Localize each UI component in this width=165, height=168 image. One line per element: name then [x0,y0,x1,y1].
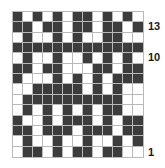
chart-cell[interactable] [103,95,113,105]
chart-cell[interactable] [63,116,73,126]
chart-cell[interactable] [93,84,103,94]
chart-cell[interactable] [93,33,103,43]
chart-cell[interactable] [113,43,123,53]
chart-cell[interactable] [123,43,133,53]
chart-cell[interactable] [43,126,53,136]
chart-cell[interactable] [33,126,43,136]
chart-cell[interactable] [83,147,93,157]
chart-cell[interactable] [13,74,23,84]
chart-cell[interactable] [63,126,73,136]
chart-cell[interactable] [123,147,133,157]
chart-cell[interactable] [113,147,123,157]
chart-cell[interactable] [103,136,113,146]
chart-cell[interactable] [113,22,123,32]
chart-cell[interactable] [43,136,53,146]
chart-cell[interactable] [43,95,53,105]
chart-cell[interactable] [113,64,123,74]
chart-cell[interactable] [83,74,93,84]
chart-cell[interactable] [73,53,83,63]
chart-cell[interactable] [83,126,93,136]
chart-cell[interactable] [73,43,83,53]
chart-cell[interactable] [113,116,123,126]
chart-cell[interactable] [133,84,143,94]
chart-cell[interactable] [133,64,143,74]
chart-cell[interactable] [43,12,53,22]
chart-cell[interactable] [43,105,53,115]
chart-cell[interactable] [103,22,113,32]
chart-cell[interactable] [83,33,93,43]
chart-cell[interactable] [93,95,103,105]
chart-cell[interactable] [23,116,33,126]
chart-cell[interactable] [43,116,53,126]
chart-cell[interactable] [133,74,143,84]
chart-cell[interactable] [53,64,63,74]
chart-cell[interactable] [133,43,143,53]
chart-cell[interactable] [53,53,63,63]
chart-cell[interactable] [83,53,93,63]
chart-cell[interactable] [123,84,133,94]
chart-cell[interactable] [33,43,43,53]
chart-cell[interactable] [13,136,23,146]
chart-cell[interactable] [93,64,103,74]
chart-cell[interactable] [33,74,43,84]
chart-cell[interactable] [33,53,43,63]
chart-cell[interactable] [133,22,143,32]
chart-cell[interactable] [23,84,33,94]
chart-cell[interactable] [33,105,43,115]
chart-cell[interactable] [13,105,23,115]
chart-cell[interactable] [83,95,93,105]
chart-cell[interactable] [133,116,143,126]
chart-cell[interactable] [123,64,133,74]
chart-cell[interactable] [133,147,143,157]
chart-cell[interactable] [123,53,133,63]
chart-cell[interactable] [53,105,63,115]
chart-cell[interactable] [113,53,123,63]
chart-cell[interactable] [73,22,83,32]
chart-cell[interactable] [33,116,43,126]
chart-cell[interactable] [73,147,83,157]
chart-cell[interactable] [103,147,113,157]
chart-cell[interactable] [133,126,143,136]
chart-cell[interactable] [83,105,93,115]
chart-cell[interactable] [13,116,23,126]
chart-cell[interactable] [33,95,43,105]
chart-cell[interactable] [123,95,133,105]
chart-cell[interactable] [73,136,83,146]
chart-cell[interactable] [63,53,73,63]
chart-cell[interactable] [123,116,133,126]
chart-cell[interactable] [43,53,53,63]
chart-cell[interactable] [33,12,43,22]
chart-cell[interactable] [23,22,33,32]
chart-cell[interactable] [63,64,73,74]
chart-cell[interactable] [83,22,93,32]
chart-cell[interactable] [73,126,83,136]
chart-cell[interactable] [113,95,123,105]
chart-cell[interactable] [73,64,83,74]
chart-cell[interactable] [33,136,43,146]
chart-cell[interactable] [103,74,113,84]
chart-cell[interactable] [113,12,123,22]
chart-cell[interactable] [13,22,23,32]
chart-cell[interactable] [83,136,93,146]
chart-cell[interactable] [73,105,83,115]
chart-cell[interactable] [93,105,103,115]
chart-cell[interactable] [83,84,93,94]
chart-cell[interactable] [123,33,133,43]
chart-cell[interactable] [123,136,133,146]
chart-cell[interactable] [73,12,83,22]
chart-cell[interactable] [93,43,103,53]
chart-cell[interactable] [103,105,113,115]
chart-cell[interactable] [123,74,133,84]
chart-cell[interactable] [23,12,33,22]
chart-cell[interactable] [23,147,33,157]
chart-cell[interactable] [13,95,23,105]
chart-cell[interactable] [63,95,73,105]
chart-cell[interactable] [133,95,143,105]
chart-cell[interactable] [43,33,53,43]
chart-cell[interactable] [63,43,73,53]
chart-cell[interactable] [13,126,23,136]
chart-grid[interactable] [12,11,144,158]
chart-cell[interactable] [53,136,63,146]
chart-cell[interactable] [23,64,33,74]
chart-cell[interactable] [133,136,143,146]
